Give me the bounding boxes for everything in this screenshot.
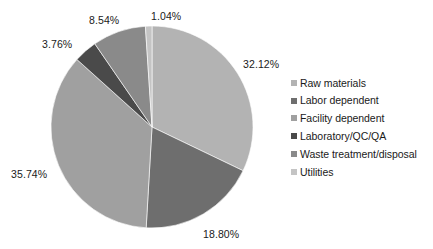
legend-item[interactable]: Utilities (291, 163, 433, 181)
pie-slice-value-label: 18.80% (203, 228, 239, 240)
pie-slice-value-label: 3.76% (42, 38, 72, 50)
legend-swatch-icon (291, 80, 297, 86)
pie-slice-value-label: 1.04% (151, 10, 181, 22)
legend-item[interactable]: Facility dependent (291, 110, 433, 128)
legend-swatch-icon (291, 151, 297, 157)
legend-item[interactable]: Waste treatment/disposal (291, 145, 433, 163)
pie-chart-figure: 32.12%18.80%35.74%3.76%8.54%1.04% Raw ma… (0, 0, 433, 249)
legend-swatch-icon (291, 115, 297, 121)
chart-legend: Raw materialsLabor dependentFacility dep… (291, 74, 433, 181)
legend-item[interactable]: Laboratory/QC/QA (291, 127, 433, 145)
pie-slice-value-label: 35.74% (11, 168, 47, 180)
legend-item-label: Waste treatment/disposal (300, 149, 417, 160)
pie-slice-value-label: 8.54% (89, 14, 119, 26)
legend-swatch-icon (291, 98, 297, 104)
legend-swatch-icon (291, 133, 297, 139)
legend-item[interactable]: Labor dependent (291, 92, 433, 110)
legend-item-label: Labor dependent (300, 95, 379, 106)
pie-slice-group (51, 26, 253, 228)
legend-item[interactable]: Raw materials (291, 74, 433, 92)
legend-swatch-icon (291, 169, 297, 175)
legend-item-label: Utilities (300, 167, 333, 178)
pie-slice-value-label: 32.12% (243, 58, 279, 70)
legend-item-label: Facility dependent (300, 113, 384, 124)
legend-item-label: Laboratory/QC/QA (300, 131, 386, 142)
legend-item-label: Raw materials (300, 78, 366, 89)
